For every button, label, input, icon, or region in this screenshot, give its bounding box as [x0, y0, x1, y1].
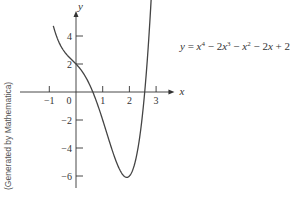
x-tick-label: 1 [100, 95, 105, 106]
x-tick-label: 3 [154, 95, 159, 106]
y-tick-label: −4 [61, 143, 72, 154]
credit-label: (Generated by Mathematica) [3, 82, 13, 190]
x-axis-label: x [178, 85, 184, 97]
y-axis-label: y [77, 0, 83, 12]
x-axis-arrow-icon [168, 90, 174, 95]
equation-label: y = x4 − 2x3 − x2 − 2x + 2 [180, 40, 290, 52]
x-tick-label: −1 [44, 95, 55, 106]
x-tick-label: 2 [127, 95, 132, 106]
y-tick-label: 4 [67, 31, 72, 42]
x-tick-label: 0 [67, 95, 72, 106]
y-tick-label: −6 [61, 171, 72, 182]
y-tick-label: −2 [61, 115, 72, 126]
function-plot: xy−1012342−2−4−6 [0, 0, 290, 197]
axes: xy−1012342−2−4−6 [20, 0, 184, 188]
